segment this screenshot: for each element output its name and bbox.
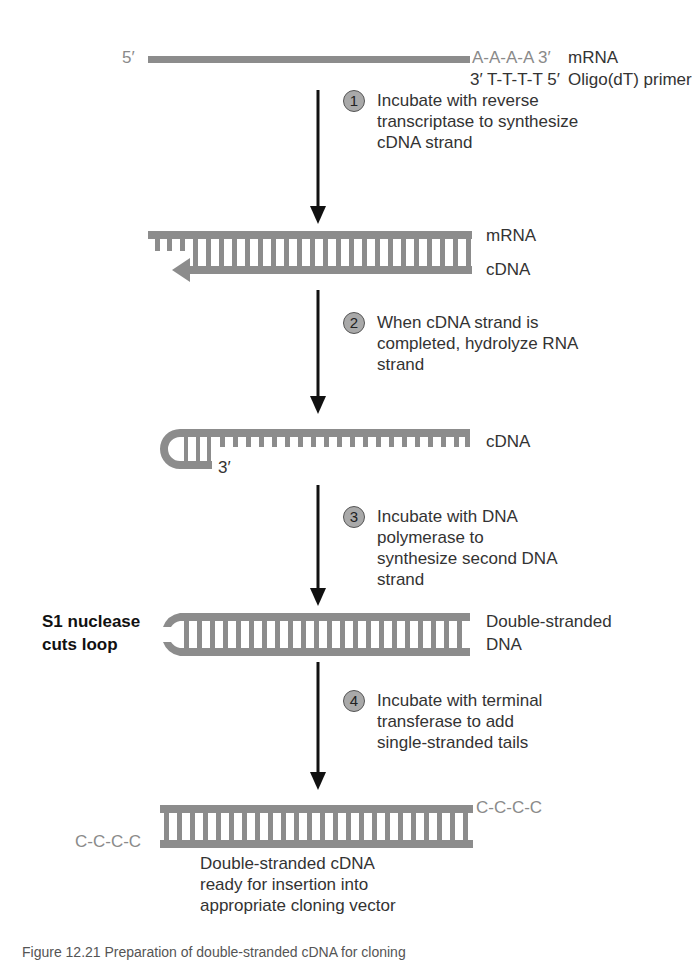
- three-prime-end-label: 3′: [218, 458, 231, 478]
- ds-dna-looped: [163, 613, 470, 656]
- step-1-text: Incubate with reverse transcriptase to s…: [377, 90, 578, 153]
- step-3-text: Incubate with DNA polymerase to synthesi…: [377, 506, 557, 590]
- left-c-tail: C-C-C-C: [75, 832, 141, 852]
- ds-dna-label-line2: DNA: [486, 635, 522, 655]
- ds-cdna-final: [160, 805, 473, 848]
- mrna-cdna-hybrid: [148, 231, 472, 282]
- mrna-label: mRNA: [568, 48, 618, 68]
- step-4-badge: 4: [343, 690, 365, 712]
- step-1-badge: 1: [343, 90, 365, 112]
- hairpin-cdna-label: cDNA: [486, 432, 530, 452]
- step-4-text: Incubate with terminal transferase to ad…: [377, 690, 542, 753]
- five-prime-label: 5′: [122, 48, 135, 68]
- polya-tail: A-A-A-A 3′: [472, 48, 551, 68]
- result-text: Double-stranded cDNA ready for insertion…: [200, 853, 396, 916]
- ds-dna-label-line1: Double-stranded: [486, 612, 612, 632]
- step-2-badge: 2: [343, 312, 365, 334]
- s1-nuclease-note: S1 nuclease cuts loop: [42, 610, 140, 656]
- oligo-dt-sequence: 3′ T-T-T-T 5′: [470, 70, 560, 90]
- hybrid-mrna-label: mRNA: [486, 226, 536, 246]
- figure-caption: Figure 12.21 Preparation of double-stran…: [22, 944, 406, 960]
- step-3-badge: 3: [343, 506, 365, 528]
- hybrid-cdna-label: cDNA: [486, 260, 530, 280]
- mrna-strand: [148, 56, 470, 63]
- step-2-text: When cDNA strand is completed, hydrolyze…: [377, 312, 578, 375]
- right-c-tail: C-C-C-C: [476, 798, 542, 818]
- cdna-hairpin: [160, 429, 470, 469]
- oligo-dt-label: Oligo(dT) primer: [568, 70, 692, 90]
